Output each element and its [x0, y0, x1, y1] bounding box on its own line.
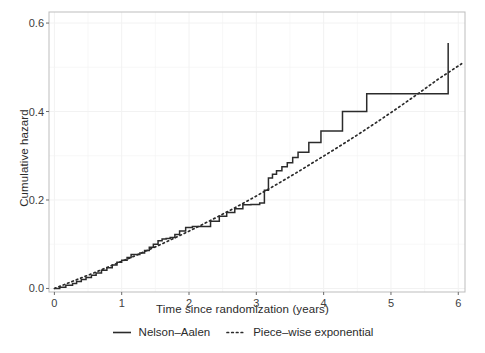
- y-axis-title: Cumulative hazard: [18, 58, 30, 258]
- nelson-aalen-step-curve: [54, 43, 448, 289]
- panel-border: [49, 12, 465, 292]
- y-tick-label: 0.6: [18, 17, 44, 29]
- plot-canvas: [0, 0, 485, 353]
- x-axis-title: Time since randomization (years): [0, 303, 485, 315]
- axis-tick-marks: [46, 23, 458, 295]
- legend-label-nelson-aalen: Nelson–Aalen: [139, 326, 211, 338]
- dotted-line-key-icon: [226, 327, 246, 338]
- solid-line-key-icon: [112, 327, 132, 338]
- y-tick-label: 0.0: [18, 282, 44, 294]
- legend-label-piecewise-exponential: Piece–wise exponential: [253, 326, 373, 338]
- chart-legend: Nelson–Aalen Piece–wise exponential: [0, 326, 485, 338]
- piecewise-exponential-curve: [54, 64, 461, 289]
- legend-item-nelson-aalen: Nelson–Aalen: [112, 326, 211, 338]
- gridlines: [49, 12, 465, 292]
- cumulative-hazard-chart: 0123456 0.00.20.40.6 Time since randomiz…: [0, 0, 485, 353]
- legend-item-piecewise-exponential: Piece–wise exponential: [226, 326, 373, 338]
